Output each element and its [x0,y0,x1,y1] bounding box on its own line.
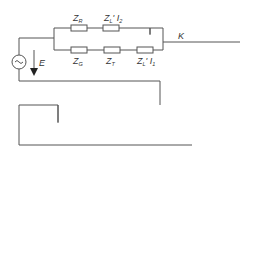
node-k1: K [178,31,185,41]
svg-text:ZT: ZT [105,56,116,67]
svg-text:ZL' I2: ZL' I2 [103,13,122,24]
svg-text:ZL' I1: ZL' I1 [136,56,155,67]
resistor-zl2-1 [103,25,119,31]
circuit-diagram: E ZR ZL' I2 ZG ZT ZL' I1 K [0,0,280,274]
branch-1: ZR ZL' I2 ZG ZT ZL' I1 K [54,13,240,67]
svg-text:ZR: ZR [72,13,83,24]
branch-2 [19,81,192,145]
svg-text:ZG: ZG [72,56,84,67]
resistor-zt-1 [104,47,120,53]
resistor-zg-1 [71,47,87,53]
label-e: E [39,58,46,68]
resistor-zr-1 [71,25,87,31]
ac-sine-icon [15,61,23,64]
resistor-zl1-1 [137,47,153,53]
